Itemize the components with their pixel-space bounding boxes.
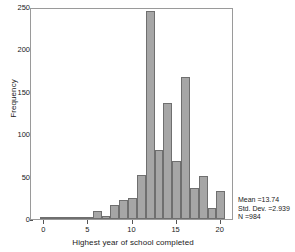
bar-series [31, 9, 232, 219]
histogram-figure: Frequency 050100150200250 05101520 Highe… [0, 0, 295, 252]
histogram-bar [66, 217, 75, 219]
histogram-bar [49, 217, 58, 219]
stat-n: N =984 [238, 213, 290, 222]
histogram-bar [146, 11, 155, 219]
x-tick-mark [87, 220, 88, 224]
histogram-bar [119, 200, 128, 220]
histogram-bar [84, 217, 93, 219]
histogram-bar [190, 188, 199, 219]
histogram-bar [199, 176, 208, 219]
x-axis-title: Highest year of school completed [0, 238, 266, 247]
statistics-annotation: Mean =13.74 Std. Dev. =2.939 N =984 [238, 196, 290, 222]
x-tick-label: 15 [166, 225, 186, 234]
x-tick-mark [176, 220, 177, 224]
histogram-bar [172, 161, 181, 219]
x-tick-label: 5 [77, 225, 97, 234]
histogram-bar [208, 208, 217, 219]
x-tick-mark [43, 220, 44, 224]
y-tick-label: 200 [12, 46, 30, 54]
plot-area [30, 8, 233, 220]
histogram-bar [137, 175, 146, 219]
y-tick-label: 150 [12, 89, 30, 97]
histogram-bar [57, 217, 66, 219]
histogram-bar [93, 211, 102, 219]
histogram-bar [216, 191, 225, 219]
histogram-bar [110, 205, 119, 219]
histogram-bar [128, 198, 137, 219]
stat-std-dev: Std. Dev. =2.939 [238, 205, 290, 214]
histogram-bar [102, 216, 111, 219]
x-tick-label: 10 [122, 225, 142, 234]
histogram-bar [163, 103, 172, 219]
stat-mean: Mean =13.74 [238, 196, 290, 205]
histogram-bar [155, 150, 164, 219]
histogram-bar [40, 217, 49, 219]
x-tick-mark [132, 220, 133, 224]
y-tick-label: 0 [12, 216, 30, 224]
x-tick-mark [220, 220, 221, 224]
x-tick-label: 0 [33, 225, 53, 234]
histogram-bar [181, 77, 190, 219]
histogram-bar [75, 217, 84, 219]
y-tick-label: 100 [12, 131, 30, 139]
y-tick-label: 50 [12, 174, 30, 182]
y-axis-ticks: 050100150200250 [10, 0, 30, 252]
x-tick-label: 20 [210, 225, 230, 234]
y-tick-label: 250 [12, 4, 30, 12]
